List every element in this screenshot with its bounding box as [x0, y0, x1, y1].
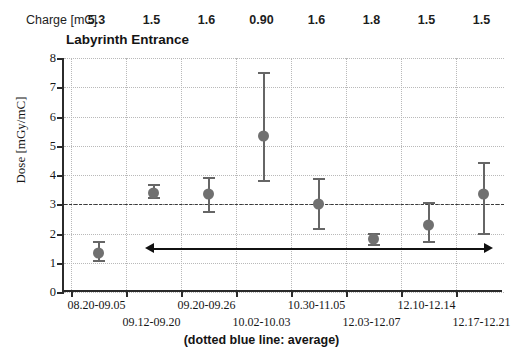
- y-axis-tick: [57, 234, 64, 236]
- y-axis-tick: [57, 175, 64, 177]
- error-bar-cap-upper: [258, 72, 270, 74]
- plot-area: 012345678: [62, 58, 502, 292]
- plot-title: Labyrinth Entrance: [66, 32, 189, 47]
- data-point-marker: [313, 199, 324, 210]
- average-line: [64, 204, 504, 205]
- range-arrow-head-left: [145, 243, 154, 253]
- error-bar: [263, 73, 265, 181]
- gridline-vertical: [346, 58, 347, 292]
- x-axis-tick: [71, 290, 73, 297]
- y-axis-tick: [57, 146, 64, 148]
- x-axis-tick: [401, 290, 403, 297]
- gridline-vertical: [126, 58, 127, 292]
- x-axis-tick-label: 12.17-12.21: [453, 315, 511, 330]
- charge-value: 5.3: [88, 13, 105, 27]
- data-point-marker: [258, 130, 269, 141]
- error-bar-cap-upper: [93, 241, 105, 243]
- gridline-vertical: [236, 58, 237, 292]
- y-axis-tick: [57, 58, 64, 60]
- charge-value: 0.90: [249, 13, 273, 27]
- chart-caption: (dotted blue line: average): [0, 333, 523, 347]
- data-point-marker: [203, 189, 214, 200]
- y-axis-tick-label: 6: [34, 109, 56, 124]
- y-axis-tick-label: 7: [34, 80, 56, 95]
- x-axis-tick-label: 08.20-09.05: [68, 298, 126, 313]
- gridline-horizontal: [64, 234, 504, 235]
- y-axis-tick-label: 5: [34, 138, 56, 153]
- gridline-horizontal: [64, 58, 504, 59]
- error-bar-cap-upper: [478, 162, 490, 164]
- y-axis-tick-label: 4: [34, 168, 56, 183]
- data-point-marker: [148, 187, 159, 198]
- error-bar-cap-lower: [478, 233, 490, 235]
- x-axis-tick: [346, 290, 348, 297]
- gridline-horizontal: [64, 117, 504, 118]
- charge-value: 1.5: [143, 13, 160, 27]
- y-axis-tick: [57, 204, 64, 206]
- x-axis-tick-label: 09.20-09.26: [178, 298, 236, 313]
- gridline-vertical: [71, 58, 72, 292]
- error-bar-cap-upper: [423, 202, 435, 204]
- y-axis-tick: [57, 263, 64, 265]
- y-axis-tick-label: 8: [34, 51, 56, 66]
- x-axis-tick: [181, 290, 183, 297]
- y-axis-label: Dose [mGy/mC]: [13, 85, 29, 195]
- y-axis-tick-label: 2: [34, 226, 56, 241]
- x-axis-tick-label: 09.12-09.20: [123, 315, 181, 330]
- data-point-marker: [93, 247, 104, 258]
- x-axis-tick-label: 12.10-12.14: [398, 298, 456, 313]
- error-bar-cap-upper: [148, 184, 160, 186]
- gridline-vertical: [401, 58, 402, 292]
- x-axis-tick: [236, 290, 238, 297]
- chart-screenshot: Charge [mC] 5.31.51.60.901.61.81.51.5 La…: [0, 0, 523, 358]
- y-axis-tick: [57, 87, 64, 89]
- error-bar-cap-lower: [203, 211, 215, 213]
- data-point-marker: [478, 189, 489, 200]
- gridline-vertical: [181, 58, 182, 292]
- charge-value: 1.6: [198, 13, 215, 27]
- gridline-vertical: [456, 58, 457, 292]
- gridline-horizontal: [64, 292, 504, 293]
- x-axis-tick: [456, 290, 458, 297]
- y-axis-tick: [57, 292, 64, 294]
- gridline-vertical: [291, 58, 292, 292]
- data-point-marker: [423, 219, 434, 230]
- gridline-horizontal: [64, 263, 504, 264]
- error-bar-cap-lower: [313, 228, 325, 230]
- x-axis-tick: [126, 290, 128, 297]
- gridline-horizontal: [64, 175, 504, 176]
- charge-value: 1.6: [308, 13, 325, 27]
- charge-header-row: Charge [mC] 5.31.51.60.901.61.81.51.5: [0, 13, 523, 31]
- charge-value: 1.5: [418, 13, 435, 27]
- y-axis-tick-label: 3: [34, 197, 56, 212]
- error-bar-cap-lower: [258, 180, 270, 182]
- x-axis-tick-label: 10.30-11.05: [288, 298, 346, 313]
- gridline-horizontal: [64, 146, 504, 147]
- charge-value: 1.8: [363, 13, 380, 27]
- data-point-marker: [368, 234, 379, 245]
- x-axis-tick-label: 12.03-12.07: [343, 315, 401, 330]
- error-bar-cap-upper: [203, 177, 215, 179]
- x-axis-tick-label: 10.02-10.03: [233, 315, 291, 330]
- y-axis-tick-label: 0: [34, 285, 56, 300]
- range-arrow-head-right: [484, 243, 493, 253]
- charge-value: 1.5: [473, 13, 490, 27]
- gridline-horizontal: [64, 87, 504, 88]
- error-bar-cap-lower: [423, 241, 435, 243]
- range-arrow-line: [154, 248, 484, 250]
- charge-header-label: Charge [mC]: [26, 13, 97, 27]
- error-bar-cap-upper: [313, 178, 325, 180]
- y-axis-tick: [57, 117, 64, 119]
- y-axis-tick-label: 1: [34, 255, 56, 270]
- error-bar-cap-lower: [93, 260, 105, 262]
- x-axis-tick: [291, 290, 293, 297]
